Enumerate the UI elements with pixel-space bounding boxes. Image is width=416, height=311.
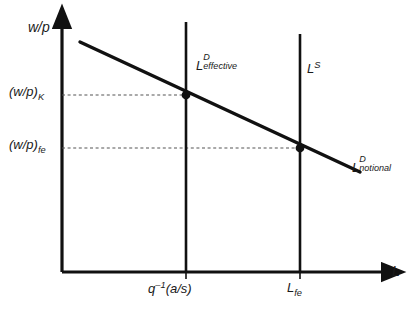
labour-market-diagram <box>0 0 416 311</box>
curve-label-labour-supply: LS <box>307 61 320 75</box>
constrained-equilibrium-point <box>182 91 191 100</box>
x-tick-lfe-sub: fe <box>294 288 302 298</box>
curve-notional-sub: notional <box>359 164 391 173</box>
x-axis-label: L <box>392 264 400 278</box>
y-tick-fe-base: (w/p) <box>9 137 38 152</box>
curve-effective-sub: effective <box>203 62 237 71</box>
y-tick-label-wp-fe: (w/p)fe <box>9 138 46 155</box>
x-tick-label-q-inverse: q–1(a/s) <box>148 281 192 295</box>
y-tick-k-base: (w/p) <box>9 84 38 99</box>
curve-notional-base: L <box>352 160 359 175</box>
y-tick-k-sub: K <box>38 92 44 102</box>
curve-label-effective-demand: LDeffectiveeffective <box>196 59 237 72</box>
curve-label-notional-demand: LDnotionalnotional <box>352 161 391 174</box>
curve-effective-base: L <box>196 58 203 73</box>
x-tick-q-sup: –1 <box>155 280 165 290</box>
x-tick-label-l-fe: Lfe <box>287 281 302 298</box>
y-axis-label: w/p <box>28 20 50 34</box>
x-tick-q-rest: (a/s) <box>166 281 192 296</box>
y-tick-fe-sub: fe <box>38 145 46 155</box>
y-tick-label-wp-k: (w/p)K <box>9 85 44 102</box>
diagram-canvas: w/p L (w/p)K (w/p)fe q–1(a/s) Lfe LDeffe… <box>0 0 416 311</box>
full-employment-equilibrium-point <box>296 144 305 153</box>
curve-supply-sup: S <box>314 60 320 70</box>
